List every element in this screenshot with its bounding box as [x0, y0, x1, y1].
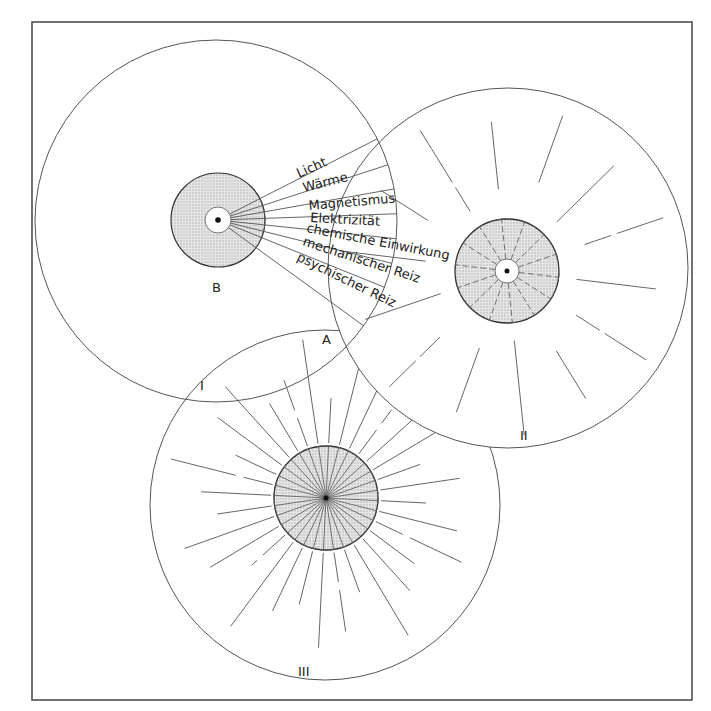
label-A: A [322, 332, 331, 347]
diagram-stage: III II B A I Licht Wärme Magnetismus [0, 0, 711, 711]
label-B: B [212, 280, 221, 295]
circle-II-center-dot [505, 269, 510, 274]
stimulus-diagram: III II B A I Licht Wärme Magnetismus [0, 0, 711, 711]
circle-II-label: II [520, 428, 528, 443]
circle-I-label: I [200, 378, 204, 393]
ray-line [264, 222, 265, 228]
circle-III-label: III [298, 664, 310, 679]
circle-III-center-dot [324, 496, 329, 501]
circle-I-center-dot [215, 217, 221, 223]
